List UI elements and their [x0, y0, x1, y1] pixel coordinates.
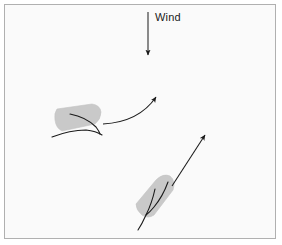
- wind-label: Wind: [155, 11, 181, 23]
- diagram-canvas: [0, 0, 282, 245]
- sail-body-upper: [55, 104, 101, 131]
- figure-container: Wind: [0, 0, 282, 245]
- curved-trajectory-arrow: [103, 97, 156, 124]
- straight-trajectory-arrow: [172, 135, 205, 186]
- sail-shape-lower-right: [136, 175, 174, 230]
- sail-body-lower: [136, 175, 174, 217]
- sail-shape-upper-left: [52, 104, 102, 137]
- sail-rib-upper-2: [52, 130, 102, 137]
